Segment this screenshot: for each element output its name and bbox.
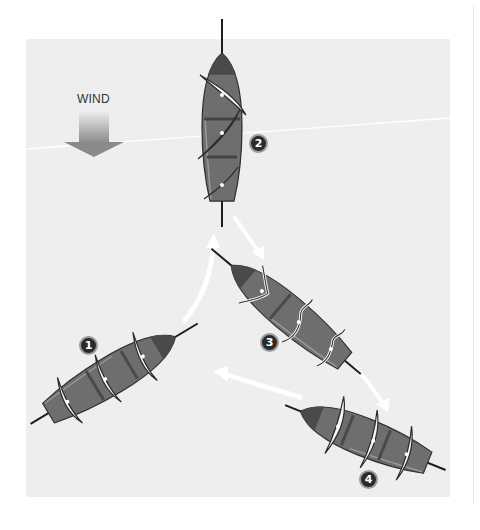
position-badge-2: 2 <box>249 134 268 153</box>
position-badge-4: 4 <box>359 470 378 489</box>
position-badge-1: 1 <box>79 336 98 355</box>
wind-arrow-icon <box>64 111 124 157</box>
position-badge-3: 3 <box>260 333 279 352</box>
sailing-diagram <box>0 0 480 530</box>
wind-label: WIND <box>77 92 110 106</box>
boat-position-1 <box>17 301 212 448</box>
boat-position-2 <box>198 19 246 227</box>
